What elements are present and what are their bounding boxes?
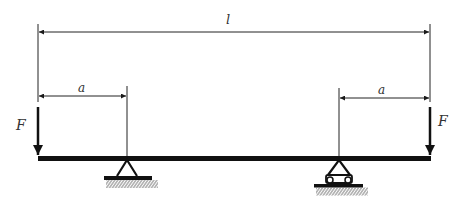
right-force-label: F	[437, 113, 449, 129]
beam	[38, 156, 431, 161]
pin-support-icon	[104, 160, 158, 188]
roller-support-icon	[314, 160, 368, 196]
left-overhang-dimension: a	[39, 81, 126, 96]
beam-diagram: l a a F F	[0, 0, 463, 206]
left-force-label: F	[15, 117, 27, 133]
total-length-dimension: l	[39, 12, 429, 32]
right-overhang-label: a	[378, 83, 385, 97]
left-overhang-label: a	[78, 81, 85, 95]
total-length-label: l	[226, 12, 230, 27]
right-overhang-dimension: a	[340, 83, 429, 98]
